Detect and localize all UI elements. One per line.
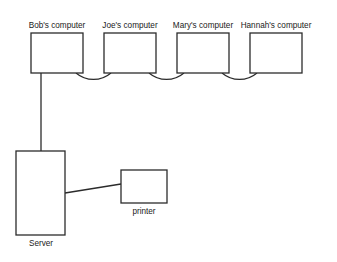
node-label-mary: Mary's computer [173, 21, 234, 30]
node-box-joe[interactable] [104, 33, 156, 73]
node-box-bob[interactable] [31, 33, 83, 73]
connection-joe-mary [149, 73, 184, 79]
node-box-hannah[interactable] [250, 33, 302, 73]
connection-mary-hannah [222, 73, 257, 79]
node-label-joe: Joe's computer [102, 21, 158, 30]
node-box-mary[interactable] [177, 33, 229, 73]
node-box-printer[interactable] [121, 170, 167, 203]
node-label-hannah: Hannah's computer [241, 21, 312, 30]
connection-bob-joe [76, 73, 111, 79]
node-box-server[interactable] [16, 151, 65, 235]
node-label-bob: Bob's computer [29, 21, 86, 30]
connection-server-printer [65, 184, 121, 193]
node-label-printer: printer [132, 207, 155, 216]
diagram-surface: Bob's computer Joe's computer Mary's com… [0, 0, 337, 262]
node-label-server: Server [29, 239, 53, 248]
network-diagram-canvas: Bob's computer Joe's computer Mary's com… [0, 0, 337, 262]
